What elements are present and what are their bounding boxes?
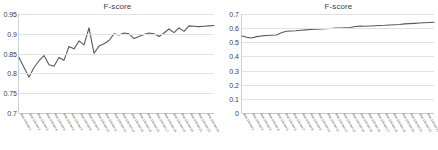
gridline <box>242 71 434 72</box>
chart-panel-right: F-score 00.10.20.30.40.50.60.7 step-100-… <box>219 0 438 150</box>
gridline <box>242 42 434 43</box>
chart-panel-left: F-score 0.70.750.80.850.90.95 step-100-i… <box>0 0 219 150</box>
figure-two-line-charts: F-score 0.70.750.80.850.90.95 step-100-i… <box>0 0 438 150</box>
gridline <box>242 85 434 86</box>
y-tick-label: 0.2 <box>222 81 239 88</box>
y-tick-label: 0.85 <box>3 50 17 57</box>
plot-wrap-left: 0.70.750.80.850.90.95 <box>0 14 219 113</box>
x-axis-labels-left: step-100-iter-1step-100-iter-2step-100-i… <box>0 113 219 150</box>
gridline <box>19 54 214 55</box>
y-tick-label: 0.1 <box>222 95 239 102</box>
y-tick-label: 0.9 <box>3 30 17 37</box>
y-tick-label: 0.8 <box>3 70 17 77</box>
plot-area-left <box>18 14 214 113</box>
x-axis-labels-right: step-100-iter-1step-100-iter-2step-100-i… <box>219 113 438 150</box>
gridline <box>242 99 434 100</box>
gridline <box>19 34 214 35</box>
chart-title-left: F-score <box>0 2 227 11</box>
series-line-left <box>19 14 214 113</box>
y-tick-label: 0.75 <box>3 90 17 97</box>
y-tick-label: 0.3 <box>222 67 239 74</box>
gridline <box>19 14 214 15</box>
y-axis-labels-right: 00.10.20.30.40.50.60.7 <box>219 14 239 113</box>
gridline <box>19 73 214 74</box>
y-tick-label: 0.6 <box>222 25 239 32</box>
gridline <box>242 28 434 29</box>
chart-title-right: F-score <box>219 2 438 11</box>
plot-area-right <box>241 14 434 113</box>
y-tick-label: 0.4 <box>222 53 239 60</box>
gridline <box>242 14 434 15</box>
plot-wrap-right: 00.10.20.30.40.50.60.7 <box>219 14 438 113</box>
gridline <box>19 93 214 94</box>
gridline <box>242 56 434 57</box>
y-tick-label: 0.5 <box>222 39 239 46</box>
y-axis-labels-left: 0.70.750.80.850.90.95 <box>0 14 17 113</box>
y-tick-label: 0.95 <box>3 11 17 18</box>
y-tick-label: 0.7 <box>222 11 239 18</box>
